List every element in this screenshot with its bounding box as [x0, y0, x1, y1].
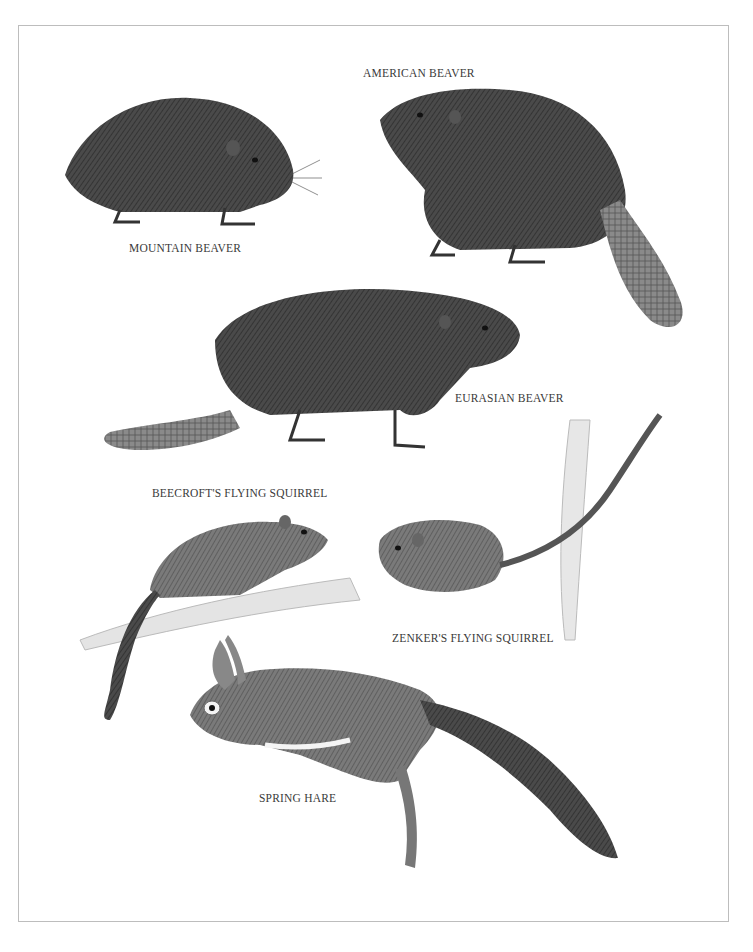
label-american-beaver: AMERICAN BEAVER: [363, 67, 475, 79]
eurasian-beaver-figure: [104, 289, 520, 450]
illustration: [0, 0, 753, 952]
label-eurasian-beaver: EURASIAN BEAVER: [455, 392, 564, 404]
mountain-beaver-figure: [65, 98, 322, 224]
label-mountain-beaver: MOUNTAIN BEAVER: [129, 242, 241, 254]
label-beecrofts-flying-squirrel: BEECROFT'S FLYING SQUIRREL: [152, 487, 327, 499]
american-beaver-figure: [380, 89, 683, 327]
label-spring-hare: SPRING HARE: [259, 792, 336, 804]
zenkers-flying-squirrel-figure: [379, 415, 660, 640]
spring-hare-figure: [190, 635, 618, 868]
label-zenkers-flying-squirrel: ZENKER'S FLYING SQUIRREL: [392, 632, 554, 644]
